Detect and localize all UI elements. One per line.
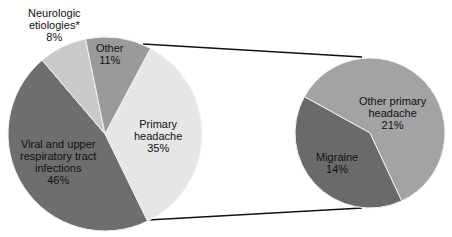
label-value: 35%: [134, 142, 182, 154]
label-text: Other: [96, 42, 124, 54]
label-text: headache: [359, 107, 426, 119]
label-text: Migraine: [316, 151, 358, 163]
label-value: 46%: [20, 174, 96, 186]
connector-line-bottom: [148, 208, 362, 220]
label-primary-headache: Primary headache 35%: [134, 118, 182, 154]
label-text: respiratory tract: [20, 150, 96, 162]
sub-pie: [295, 58, 445, 208]
label-text: Neurologic: [28, 7, 81, 19]
label-text: Primary: [134, 118, 182, 130]
pie-of-pie-chart: Neurologic etiologies* 8% Other 11% Prim…: [0, 0, 452, 237]
connector-line-top: [143, 44, 362, 57]
label-text: headache: [134, 130, 182, 142]
label-value: 8%: [28, 31, 81, 43]
label-value: 14%: [316, 163, 358, 175]
label-other-primary-headache: Other primary headache 21%: [359, 95, 426, 131]
label-text: infections: [20, 162, 96, 174]
label-value: 21%: [359, 119, 426, 131]
label-migraine: Migraine 14%: [316, 151, 358, 175]
label-viral: Viral and upper respiratory tract infect…: [20, 138, 96, 186]
label-text: etiologies*: [28, 19, 81, 31]
label-value: 11%: [96, 54, 124, 66]
label-neurologic: Neurologic etiologies* 8%: [28, 7, 81, 43]
label-other: Other 11%: [96, 42, 124, 66]
label-text: Other primary: [359, 95, 426, 107]
label-text: Viral and upper: [20, 138, 96, 150]
